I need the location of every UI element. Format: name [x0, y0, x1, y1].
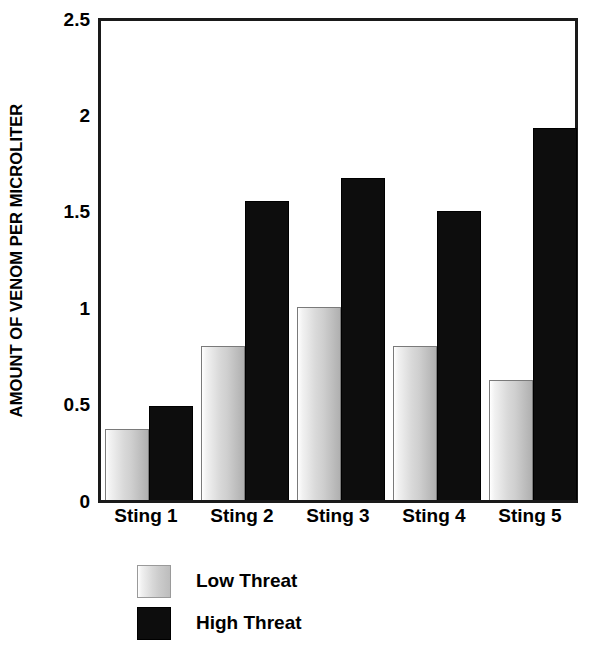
bar-chart-figure: AMOUNT OF VENOM PER MICROLITER 00.511.52… — [0, 0, 594, 649]
x-axis-tick-label: Sting 5 — [498, 505, 561, 527]
plot-bars-container — [101, 21, 575, 500]
bar-group — [293, 21, 389, 500]
bar-low-threat[interactable] — [201, 346, 245, 500]
legend-label: Low Threat — [196, 570, 297, 592]
bar-low-threat[interactable] — [489, 380, 533, 500]
bar-group — [389, 21, 485, 500]
bar-low-threat[interactable] — [297, 307, 341, 500]
y-axis-title-text: AMOUNT OF VENOM PER MICROLITER — [8, 103, 27, 417]
bar-low-threat[interactable] — [105, 429, 149, 500]
bar-high-threat[interactable] — [341, 178, 385, 500]
y-axis-tick-label: 2.5 — [64, 9, 90, 31]
legend-swatch-low-threat — [137, 565, 171, 598]
bar-group — [485, 21, 581, 500]
y-axis-tick-label: 0 — [79, 491, 90, 513]
bar-high-threat[interactable] — [437, 211, 481, 500]
x-axis-tick-labels: Sting 1Sting 2Sting 3Sting 4Sting 5 — [98, 505, 578, 535]
y-axis-tick-label: 2 — [79, 105, 90, 127]
y-axis-title: AMOUNT OF VENOM PER MICROLITER — [0, 0, 34, 520]
y-axis-tick-label: 1 — [79, 298, 90, 320]
bar-group — [101, 21, 197, 500]
plot-area — [98, 18, 578, 503]
legend-swatch-high-threat — [137, 607, 171, 640]
bar-group — [197, 21, 293, 500]
legend-item[interactable]: High Threat — [137, 602, 457, 644]
bar-low-threat[interactable] — [393, 346, 437, 500]
legend-label: High Threat — [196, 612, 302, 634]
bar-high-threat[interactable] — [245, 201, 289, 500]
x-axis-tick-label: Sting 4 — [402, 505, 465, 527]
chart-legend: Low ThreatHigh Threat — [137, 560, 457, 644]
y-axis-tick-labels: 00.511.522.5 — [36, 0, 94, 649]
y-axis-tick-label: 1.5 — [64, 201, 90, 223]
bar-high-threat[interactable] — [149, 406, 193, 500]
bar-high-threat[interactable] — [533, 128, 577, 500]
legend-item[interactable]: Low Threat — [137, 560, 457, 602]
x-axis-tick-label: Sting 2 — [210, 505, 273, 527]
x-axis-tick-label: Sting 1 — [114, 505, 177, 527]
x-axis-tick-label: Sting 3 — [306, 505, 369, 527]
y-axis-tick-label: 0.5 — [64, 394, 90, 416]
